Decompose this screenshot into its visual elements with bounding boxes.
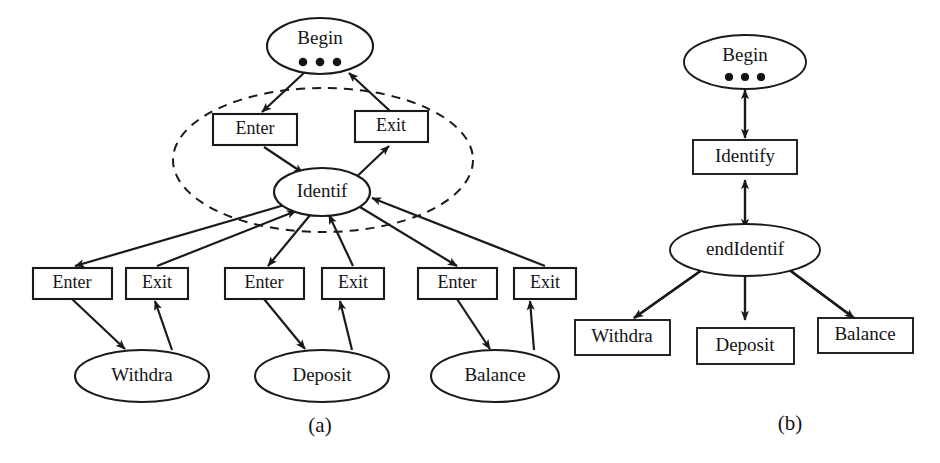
box-withdra-b[interactable]: Withdra xyxy=(575,320,670,355)
box-enter-middle-a[interactable]: Enter xyxy=(213,114,297,145)
identif-label-a: Identif xyxy=(297,180,348,201)
enter-middle-label-a: Enter xyxy=(236,118,275,138)
caption-a: (a) xyxy=(308,413,331,437)
edge-enter-to-balance xyxy=(457,299,490,349)
withdra-label-b: Withdra xyxy=(591,325,653,346)
box-enter-deposit-a[interactable]: Enter xyxy=(225,268,304,299)
node-balance-a[interactable]: Balance xyxy=(431,350,559,402)
node-endidentif-b[interactable]: endIdentif xyxy=(670,224,820,276)
edge-identif-to-enter-balance xyxy=(355,204,457,266)
diagram-canvas: Begin Enter Exit Identif Enter Exit xyxy=(0,0,940,463)
deposit-label-b: Deposit xyxy=(715,334,775,355)
box-exit-middle-a[interactable]: Exit xyxy=(355,111,428,142)
edge-enter-to-withdra xyxy=(72,299,125,349)
box-deposit-b[interactable]: Deposit xyxy=(697,328,794,364)
enter-deposit-label-a: Enter xyxy=(245,272,284,292)
begin-label-a: Begin xyxy=(297,27,343,48)
edge-deposit-to-exit xyxy=(340,301,352,350)
exit-middle-label-a: Exit xyxy=(376,115,406,135)
enter-balance-label-a: Enter xyxy=(438,272,477,292)
begin-label-b: Begin xyxy=(722,44,768,65)
withdra-label-a: Withdra xyxy=(111,364,173,385)
edge-exit-balance-to-identif xyxy=(372,198,545,266)
edge-exit-deposit-to-identif xyxy=(329,215,353,266)
ellipsis-dot-1-a xyxy=(299,58,308,67)
edge-balance-to-exit xyxy=(530,301,534,350)
node-deposit-a[interactable]: Deposit xyxy=(255,350,389,402)
balance-label-a: Balance xyxy=(464,364,525,385)
ellipsis-dot-1-b xyxy=(725,73,733,81)
edge-exit-to-begin xyxy=(349,73,390,111)
endidentif-label-b: endIdentif xyxy=(706,238,785,259)
box-identify-b[interactable]: Identify xyxy=(693,140,797,174)
ellipsis-dot-3-b xyxy=(757,73,765,81)
edge-identif-to-enter-deposit xyxy=(268,214,311,266)
node-identif-a[interactable]: Identif xyxy=(274,168,370,216)
node-begin-a[interactable]: Begin xyxy=(267,18,373,74)
edge-enter-to-deposit xyxy=(264,299,305,349)
identify-label-b: Identify xyxy=(715,145,776,166)
node-begin-b[interactable]: Begin xyxy=(684,35,806,89)
exit-deposit-label-a: Exit xyxy=(338,272,368,292)
ellipsis-dot-2-a xyxy=(316,58,325,67)
box-exit-withdraw-a[interactable]: Exit xyxy=(126,268,188,299)
node-withdra-a[interactable]: Withdra xyxy=(75,350,209,402)
exit-balance-label-a: Exit xyxy=(530,272,560,292)
edge-withdra-to-exit xyxy=(155,301,172,350)
edge-enter-to-identif xyxy=(264,147,303,173)
box-exit-balance-a[interactable]: Exit xyxy=(514,268,576,299)
ellipsis-dot-2-b xyxy=(741,73,749,81)
ellipsis-dot-3-a xyxy=(333,58,342,67)
enter-withdraw-label-a: Enter xyxy=(53,272,92,292)
balance-label-b: Balance xyxy=(834,323,895,344)
box-exit-deposit-a[interactable]: Exit xyxy=(322,268,384,299)
caption-b: (b) xyxy=(778,411,803,435)
box-balance-b[interactable]: Balance xyxy=(818,318,913,353)
exit-withdraw-label-a: Exit xyxy=(142,272,172,292)
box-enter-withdraw-a[interactable]: Enter xyxy=(33,268,112,299)
deposit-label-a: Deposit xyxy=(292,364,352,385)
figure-root: Begin Enter Exit Identif Enter Exit xyxy=(0,0,940,463)
box-enter-balance-a[interactable]: Enter xyxy=(418,268,497,299)
